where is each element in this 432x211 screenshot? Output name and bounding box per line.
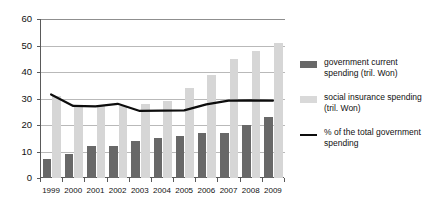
x-tick-0 bbox=[40, 178, 41, 182]
bar-social-insurance-spending-2007 bbox=[230, 59, 239, 178]
bar-social-insurance-spending-2002 bbox=[119, 106, 128, 178]
x-tick-5 bbox=[151, 178, 152, 182]
bar-government-current-spending-1999 bbox=[43, 159, 52, 178]
bar-government-current-spending-2006 bbox=[198, 133, 207, 178]
bar-government-current-spending-2002 bbox=[109, 146, 118, 178]
bar-group-2006 bbox=[196, 19, 218, 178]
bar-group-2005 bbox=[174, 19, 196, 178]
y-tick-label-30: 30 bbox=[6, 94, 32, 104]
bar-social-insurance-spending-2008 bbox=[252, 51, 261, 178]
x-tick-8 bbox=[217, 178, 218, 182]
y-tick-label-20: 20 bbox=[6, 120, 32, 130]
bar-government-current-spending-2008 bbox=[242, 125, 251, 178]
plot-area bbox=[40, 19, 284, 178]
bar-group-2007 bbox=[218, 19, 240, 178]
x-tick-2 bbox=[84, 178, 85, 182]
bar-social-insurance-spending-2005 bbox=[185, 88, 194, 178]
bar-group-2003 bbox=[130, 19, 152, 178]
bar-group-2002 bbox=[108, 19, 130, 178]
bar-social-insurance-spending-2001 bbox=[97, 106, 106, 178]
x-tick-1 bbox=[62, 178, 63, 182]
bars-layer bbox=[41, 19, 285, 178]
legend-label: social insurance spending (tril. Won) bbox=[324, 92, 430, 113]
bar-government-current-spending-2000 bbox=[65, 154, 74, 178]
bar-government-current-spending-2007 bbox=[220, 133, 229, 178]
bar-social-insurance-spending-2000 bbox=[74, 106, 83, 178]
x-tick-9 bbox=[240, 178, 241, 182]
bar-social-insurance-spending-2004 bbox=[163, 101, 172, 178]
y-tick-label-0: 0 bbox=[6, 173, 32, 183]
legend-label: government current spending (tril. Won) bbox=[324, 57, 430, 78]
x-tick-6 bbox=[173, 178, 174, 182]
bar-social-insurance-spending-2009 bbox=[274, 43, 283, 178]
y-tick-label-40: 40 bbox=[6, 67, 32, 77]
legend-item-government-current-spending: government current spending (tril. Won) bbox=[300, 57, 430, 79]
bar-social-insurance-spending-1999 bbox=[52, 96, 61, 178]
black-line-swatch-icon bbox=[300, 134, 317, 136]
y-tick-label-60: 60 bbox=[6, 14, 32, 24]
bar-social-insurance-spending-2003 bbox=[141, 104, 150, 178]
y-tick-label-50: 50 bbox=[6, 41, 32, 51]
bar-government-current-spending-2005 bbox=[176, 136, 185, 178]
x-tick-3 bbox=[107, 178, 108, 182]
bar-group-1999 bbox=[41, 19, 63, 178]
x-tick-11 bbox=[284, 178, 285, 182]
bar-government-current-spending-2009 bbox=[264, 117, 273, 178]
x-tick-label-2009: 2009 bbox=[256, 186, 290, 195]
x-tick-10 bbox=[262, 178, 263, 182]
chart-legend: government current spending (tril. Won) … bbox=[300, 57, 430, 162]
bar-group-2001 bbox=[85, 19, 107, 178]
legend-item-percent-of-total-government-spending: % of the total government spending bbox=[300, 127, 430, 149]
bar-government-current-spending-2001 bbox=[87, 146, 96, 178]
legend-label: % of the total government spending bbox=[324, 127, 430, 148]
chart-container: 0102030405060 19992000200120022003200420… bbox=[0, 0, 432, 211]
y-tick-label-10: 10 bbox=[6, 147, 32, 157]
bar-government-current-spending-2003 bbox=[131, 141, 140, 178]
legend-item-social-insurance-spending: social insurance spending (tril. Won) bbox=[300, 92, 430, 114]
bar-group-2008 bbox=[241, 19, 263, 178]
bar-group-2004 bbox=[152, 19, 174, 178]
light-square-swatch-icon bbox=[300, 96, 317, 103]
dark-square-swatch-icon bbox=[300, 61, 317, 68]
x-tick-4 bbox=[129, 178, 130, 182]
bar-group-2009 bbox=[263, 19, 285, 178]
x-tick-7 bbox=[195, 178, 196, 182]
bar-social-insurance-spending-2006 bbox=[207, 75, 216, 178]
bar-government-current-spending-2004 bbox=[154, 138, 163, 178]
bar-group-2000 bbox=[63, 19, 85, 178]
